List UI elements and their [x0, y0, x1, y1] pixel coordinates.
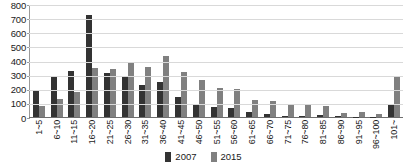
- gridline: [29, 19, 403, 20]
- x-tick: 91~95: [350, 119, 368, 151]
- gridline: [29, 104, 403, 105]
- x-tick-label: 51~55: [212, 120, 221, 144]
- x-tick: 86~90: [332, 119, 350, 151]
- bar-2015-41~45[interactable]: [181, 72, 187, 117]
- x-tick: 11~15: [66, 119, 84, 151]
- x-tick-label: 41~45: [177, 120, 186, 144]
- y-tick-mark: [27, 62, 29, 63]
- legend-item-2015[interactable]: 2015: [211, 152, 242, 162]
- x-tick: 1~5: [30, 119, 48, 151]
- x-tick-label: 21~25: [105, 120, 114, 144]
- x-tick-label: 101~: [390, 120, 399, 139]
- x-tick: 66~70: [261, 119, 279, 151]
- legend-swatch-icon: [165, 152, 171, 162]
- x-tick: 71~75: [279, 119, 297, 151]
- gridline: [29, 5, 403, 6]
- y-tick-mark: [27, 33, 29, 34]
- chart-legend: 20072015: [0, 152, 407, 162]
- x-tick-label: 81~85: [319, 120, 328, 144]
- x-tick: 51~55: [208, 119, 226, 151]
- gridline: [29, 33, 403, 34]
- gridline: [29, 76, 403, 77]
- x-tick: 16~20: [83, 119, 101, 151]
- x-tick: 6~10: [48, 119, 66, 151]
- x-tick: 46~50: [190, 119, 208, 151]
- y-tick-label: 600: [0, 29, 26, 39]
- x-tick-label: 56~60: [230, 120, 239, 144]
- y-tick-label: 100: [0, 99, 26, 109]
- legend-item-2007[interactable]: 2007: [165, 152, 196, 162]
- y-tick-label: 0: [0, 114, 26, 124]
- bar-2015-81~85[interactable]: [323, 106, 329, 117]
- x-tick-label: 76~80: [301, 120, 310, 144]
- x-tick: 41~45: [172, 119, 190, 151]
- x-tick-label: 46~50: [194, 120, 203, 144]
- gridline: [29, 62, 403, 63]
- bar-2015-46~50[interactable]: [199, 80, 205, 117]
- gridline: [29, 90, 403, 91]
- x-tick: 26~30: [119, 119, 137, 151]
- x-tick: 56~60: [225, 119, 243, 151]
- y-axis: 0100200300400500600700800: [0, 0, 26, 124]
- x-tick: 21~25: [101, 119, 119, 151]
- bar-2015-36~40[interactable]: [163, 56, 169, 117]
- bar-2015-71~75[interactable]: [288, 104, 294, 117]
- x-tick: 36~40: [154, 119, 172, 151]
- gridline: [29, 47, 403, 48]
- y-tick-label: 800: [0, 1, 26, 11]
- bar-2015-1~5[interactable]: [39, 106, 45, 117]
- y-tick-mark: [27, 47, 29, 48]
- x-tick-label: 61~65: [248, 120, 257, 144]
- x-tick-label: 36~40: [159, 120, 168, 144]
- y-tick-mark: [27, 90, 29, 91]
- x-tick: 61~65: [243, 119, 261, 151]
- plot-area: [29, 5, 403, 118]
- x-tick-label: 66~70: [265, 120, 274, 144]
- bar-2015-101~[interactable]: [394, 76, 400, 117]
- x-tick-label: 96~100: [372, 120, 381, 149]
- bar-2015-6~10[interactable]: [57, 99, 63, 117]
- bar-2015-61~65[interactable]: [252, 100, 258, 117]
- bar-2015-91~95[interactable]: [359, 112, 365, 117]
- x-tick-label: 1~5: [34, 120, 43, 135]
- x-tick-label: 86~90: [336, 120, 345, 144]
- x-tick-label: 6~10: [52, 120, 61, 139]
- x-tick-label: 31~35: [141, 120, 150, 144]
- bar-2015-96~100[interactable]: [376, 114, 382, 117]
- x-tick-label: 16~20: [88, 120, 97, 144]
- legend-label: 2007: [175, 152, 196, 162]
- bar-2015-76~80[interactable]: [305, 105, 311, 117]
- bar-2015-51~55[interactable]: [217, 88, 223, 117]
- y-tick-label: 400: [0, 57, 26, 67]
- y-tick-mark: [27, 5, 29, 6]
- x-tick: 31~35: [137, 119, 155, 151]
- x-tick: 81~85: [314, 119, 332, 151]
- y-tick-label: 200: [0, 85, 26, 95]
- x-tick: 76~80: [296, 119, 314, 151]
- x-tick: 96~100: [368, 119, 386, 151]
- y-tick-mark: [27, 76, 29, 77]
- legend-label: 2015: [221, 152, 242, 162]
- bar-chart: 0100200300400500600700800 1~56~1011~1516…: [0, 0, 407, 167]
- x-tick-label: 71~75: [283, 120, 292, 144]
- x-tick-label: 91~95: [354, 120, 363, 144]
- y-tick-mark: [27, 118, 29, 119]
- x-axis: 1~56~1011~1516~2021~2526~3031~3536~4041~…: [30, 119, 403, 151]
- y-tick-mark: [27, 104, 29, 105]
- y-tick-label: 300: [0, 71, 26, 81]
- y-tick-mark: [27, 19, 29, 20]
- bar-2015-86~90[interactable]: [341, 113, 347, 117]
- x-tick-label: 11~15: [70, 120, 79, 144]
- y-tick-label: 700: [0, 15, 26, 25]
- x-tick: 101~: [385, 119, 403, 151]
- x-tick-label: 26~30: [123, 120, 132, 144]
- y-tick-label: 500: [0, 43, 26, 53]
- legend-swatch-icon: [211, 152, 217, 162]
